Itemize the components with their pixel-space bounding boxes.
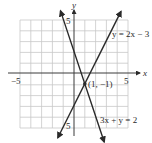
equation-label-line1: y = 2x − 3 — [112, 29, 150, 39]
equation-label-line2: 3x + y = 2 — [100, 115, 137, 125]
tick-label-y-neg5: 5 — [66, 121, 71, 131]
x-axis-label: x — [142, 68, 147, 78]
tick-label-y-pos5: 5 — [66, 16, 71, 26]
intersection-label: (1, −1) — [88, 79, 113, 89]
tick-label-x-neg5: −5 — [11, 76, 21, 86]
tick-label-x-pos5: 5 — [124, 76, 129, 86]
y-axis-label: y — [71, 0, 76, 10]
intersection-point — [83, 82, 87, 86]
coordinate-graph: y x −5 5 5 5 (1, −1) y = 2x − 3 3x + y =… — [0, 0, 152, 143]
